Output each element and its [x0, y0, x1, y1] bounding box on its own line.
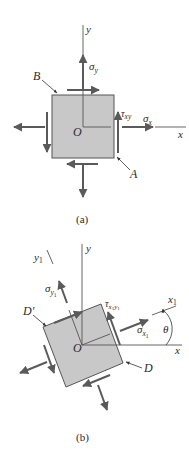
sigma-y1-bottom-arrow [98, 385, 107, 410]
point-b-leader [42, 80, 57, 93]
caption-b: (b) [76, 431, 89, 444]
sigma-x1-left-arrow [20, 362, 47, 373]
point-d-leader [126, 362, 142, 368]
y1-axis-outer [47, 250, 53, 264]
origin-label: O [73, 341, 82, 355]
tau-xy-label: τxy [121, 108, 132, 121]
y-axis-label: y [85, 242, 91, 254]
caption-a: (a) [76, 213, 89, 226]
stress-element-diagram: y x O σy σx τxy B A (a) [0, 0, 189, 462]
point-d-label: D [143, 361, 153, 375]
panel-b: y x O y1 x1 σy1 σx1 τx1y1 θ D′ D (b) [20, 242, 182, 444]
rotated-stress-element [43, 304, 123, 387]
sigma-y1-label: σy1 [45, 282, 57, 298]
point-b-label: B [33, 69, 41, 83]
point-d-prime-leader [33, 315, 46, 326]
sigma-x1-label: σx1 [137, 323, 149, 339]
sigma-y-label: σy [89, 60, 98, 75]
theta-label: θ [163, 323, 169, 335]
point-a-leader [117, 157, 130, 170]
point-d-prime-label: D′ [22, 304, 35, 318]
point-a-label: A [129, 167, 138, 181]
tau-x1y1-label: τx1y1 [105, 298, 120, 311]
origin-label: O [73, 125, 82, 139]
x-axis-label: x [174, 344, 180, 356]
x1-axis-label: x1 [167, 293, 177, 307]
sigma-y1-arrow [59, 281, 67, 303]
sigma-x-label: σx [143, 112, 152, 127]
y-axis-label: y [85, 23, 91, 35]
y1-axis-label: y1 [33, 251, 43, 265]
x-axis-label: x [177, 128, 183, 140]
panel-a: y x O σy σx τxy B A (a) [14, 23, 186, 226]
